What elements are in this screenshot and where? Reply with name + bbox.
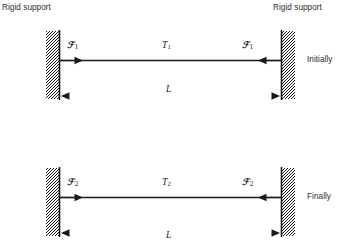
dimension-marker-right-top — [272, 92, 281, 100]
force-subscript: 1 — [74, 43, 79, 51]
force-subscript: 1 — [249, 43, 254, 51]
hatch-fill — [46, 168, 60, 236]
rigid-support-right-bottom — [281, 167, 295, 237]
label-temperature-bottom: T2 — [162, 178, 171, 188]
force-subscript: 2 — [249, 180, 254, 188]
rigid-support-right-top — [281, 30, 295, 100]
label-temperature-top: T1 — [162, 41, 171, 51]
label-force-left-bottom: ℱ2 — [67, 178, 79, 188]
label-state-initially: Initially — [307, 56, 332, 64]
force-arrow-right-bottom — [258, 194, 281, 201]
force-symbol: ℱ — [242, 40, 249, 50]
label-force-right-bottom: ℱ2 — [242, 178, 254, 188]
label-state-finally: Finally — [307, 193, 331, 201]
dimension-marker-left-bottom — [61, 229, 70, 237]
label-rigid-support-right: Rigid support — [273, 4, 322, 12]
dimension-marker-left-top — [61, 92, 70, 100]
temperature-subscript: 1 — [167, 43, 171, 50]
diagram-canvas — [0, 0, 353, 249]
label-force-left-top: ℱ1 — [67, 41, 79, 51]
label-rigid-support-left: Rigid support — [2, 4, 51, 12]
force-arrow-left-bottom — [60, 194, 83, 201]
force-subscript: 2 — [74, 180, 79, 188]
force-symbol: ℱ — [67, 40, 74, 50]
label-length-bottom: L — [166, 231, 171, 241]
force-arrow-right-top — [258, 57, 281, 64]
label-force-right-top: ℱ1 — [242, 41, 254, 51]
force-symbol: ℱ — [242, 177, 249, 187]
force-arrow-left-top — [60, 57, 83, 64]
hatch-fill — [281, 168, 295, 236]
figure-bar-between-rigid-supports: Rigid support Rigid support ℱ1 ℱ1 T1 L I… — [0, 0, 353, 249]
rigid-support-left-bottom — [46, 167, 60, 237]
hatch-fill — [46, 31, 60, 99]
dimension-marker-right-bottom — [272, 229, 281, 237]
rigid-support-left-top — [46, 30, 60, 100]
force-symbol: ℱ — [67, 177, 74, 187]
label-length-top: L — [166, 85, 171, 95]
temperature-subscript: 2 — [167, 180, 171, 187]
hatch-fill — [281, 31, 295, 99]
